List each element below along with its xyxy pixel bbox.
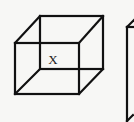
- cube-partial-right: [127, 19, 134, 121]
- diagram-canvas: X: [0, 0, 134, 122]
- cube-main: X: [15, 16, 103, 94]
- cube-edge-bottom-right: [79, 69, 103, 94]
- partial-cube-top-diagonal: [127, 19, 134, 27]
- cube-edge-top-left: [15, 16, 40, 43]
- cube-edge-bottom-left: [15, 69, 40, 94]
- cube-edge-top-right: [79, 16, 103, 43]
- cube-label: X: [48, 52, 58, 67]
